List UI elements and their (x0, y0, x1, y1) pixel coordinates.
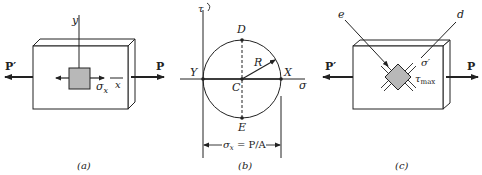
load-label-right-c: P (467, 60, 475, 73)
label-E: E (237, 121, 246, 134)
point-Y (201, 77, 205, 81)
panel-b: τ σ D E Y X C R σx = P/A (b) (180, 3, 307, 171)
load-label-left-c: P′ (325, 60, 336, 73)
load-label-right: P (156, 60, 164, 73)
dimension-label: σx = P/A (223, 139, 267, 152)
point-C (240, 77, 244, 81)
caption-b: (b) (238, 160, 252, 171)
point-X (279, 77, 283, 81)
label-R: R (253, 56, 262, 69)
tau-direction-icon (207, 3, 210, 11)
stress-element (69, 68, 90, 89)
label-e: e (338, 8, 345, 21)
diagram-canvas: y σx x P′ P (a) τ σ D E Y X C R (0, 0, 482, 175)
x-axis-label: x (115, 79, 121, 90)
label-Y: Y (190, 66, 199, 79)
label-D: D (236, 23, 246, 36)
panel-c: e d σ′ τmax P′ P (c) (323, 8, 478, 171)
panel-a: y σx x P′ P (a) (5, 14, 164, 171)
y-axis-label: y (71, 14, 79, 27)
tau-axis-label: τ (198, 3, 204, 14)
point-E (240, 116, 244, 120)
caption-a: (a) (77, 160, 91, 171)
load-label-left: P′ (5, 60, 16, 73)
point-D (240, 38, 244, 42)
sigma-prime-label: σ′ (421, 57, 431, 68)
sigma-axis-label: σ (299, 79, 307, 92)
caption-c: (c) (395, 160, 409, 171)
label-C: C (232, 81, 241, 94)
label-d: d (457, 8, 464, 21)
label-X: X (283, 66, 293, 79)
